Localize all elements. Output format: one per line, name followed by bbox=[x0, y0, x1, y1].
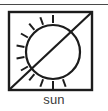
sun-ray-icon bbox=[29, 74, 34, 80]
symbol-caption-label: sun bbox=[0, 92, 108, 107]
sun-ray-icon bbox=[40, 79, 43, 87]
sun-ray-icon bbox=[17, 57, 25, 58]
sun-disc-circle bbox=[26, 25, 80, 79]
sun-ray-icon bbox=[40, 17, 43, 25]
sun-ray-icon bbox=[21, 34, 28, 38]
sun-symbol-figure: sun bbox=[0, 0, 108, 111]
sun-ray-icon bbox=[17, 46, 25, 47]
sun-ray-icon bbox=[29, 24, 34, 30]
sun-ray-icon bbox=[63, 79, 66, 87]
sun-ray-icon bbox=[21, 67, 28, 71]
